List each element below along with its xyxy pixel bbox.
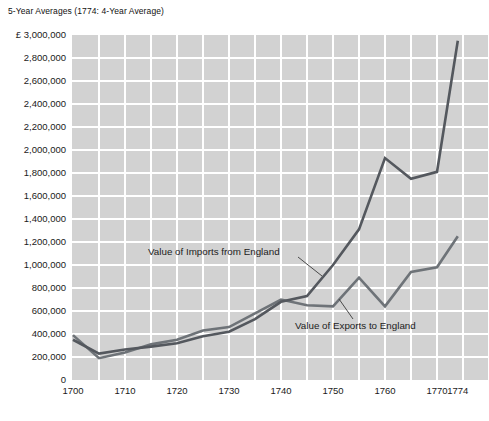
x-tick-label: 1740	[270, 385, 291, 396]
exports-series-label: Value of Exports to England	[295, 320, 416, 331]
x-tick-label: 1720	[166, 385, 187, 396]
y-tick-label: 2,400,000	[24, 98, 66, 109]
y-tick-label: 400,000	[32, 328, 66, 339]
y-tick-label: 600,000	[32, 305, 66, 316]
y-tick-label: 0	[61, 374, 66, 385]
x-tick-label: 1770	[426, 385, 447, 396]
y-tick-label: 1,400,000	[24, 213, 66, 224]
x-tick-label: 1730	[218, 385, 239, 396]
x-tick-label: 1750	[322, 385, 343, 396]
x-tick-label: 1774	[447, 385, 468, 396]
y-tick-label: 800,000	[32, 282, 66, 293]
chart: 5-Year Averages (1774: 4-Year Average) £…	[0, 0, 489, 421]
imports-series-label: Value of Imports from England	[148, 246, 280, 257]
y-tick-label: £ 3,000,000	[16, 29, 66, 40]
y-tick-label: 2,200,000	[24, 121, 66, 132]
y-tick-label: 2,600,000	[24, 75, 66, 86]
y-tick-label: 2,800,000	[24, 52, 66, 63]
y-tick-label: 1,200,000	[24, 236, 66, 247]
y-tick-label: 1,000,000	[24, 259, 66, 270]
x-tick-label: 1700	[62, 385, 83, 396]
y-tick-label: 2,000,000	[24, 144, 66, 155]
chart-svg: £ 3,000,0002,800,0002,600,0002,400,0002,…	[0, 0, 489, 421]
y-tick-label: 1,800,000	[24, 167, 66, 178]
x-tick-label: 1710	[114, 385, 135, 396]
y-tick-label: 1,600,000	[24, 190, 66, 201]
x-tick-label: 1760	[374, 385, 395, 396]
y-tick-label: 200,000	[32, 351, 66, 362]
